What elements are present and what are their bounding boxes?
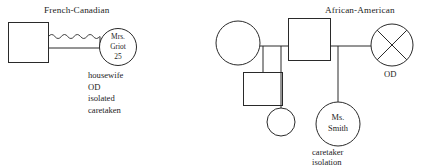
right-index-name-line2: Smith — [319, 124, 357, 135]
left-male-square[interactable] — [9, 23, 49, 63]
left-ethnicity-label: French-Canadian — [44, 5, 110, 16]
right-son-square[interactable] — [244, 73, 283, 106]
genogram-svg — [0, 0, 431, 167]
left-conflict-wavy-line — [49, 35, 100, 39]
left-female-age: 25 — [99, 52, 137, 61]
left-female-name-line1: Mrs. — [99, 32, 137, 41]
right-note-1: isolation — [312, 157, 342, 167]
genogram-canvas: French-Canadian Mrs. Griot 25 housewife … — [0, 0, 431, 167]
right-genogram-group — [216, 19, 413, 147]
right-daughter-circle[interactable] — [267, 108, 295, 136]
right-father-square[interactable] — [289, 19, 331, 61]
left-note-3: caretaken — [88, 105, 121, 117]
left-note-1: OD — [88, 82, 100, 94]
left-female-name-line2: Griot — [99, 42, 137, 51]
right-grandmother-circle[interactable] — [216, 21, 260, 65]
right-mother-od-label: OD — [384, 69, 396, 79]
left-note-0: housewife — [88, 70, 123, 82]
right-ethnicity-label: African-American — [325, 5, 395, 16]
right-index-name-line1: Ms. — [319, 113, 357, 124]
left-note-2: isolated — [88, 93, 115, 105]
